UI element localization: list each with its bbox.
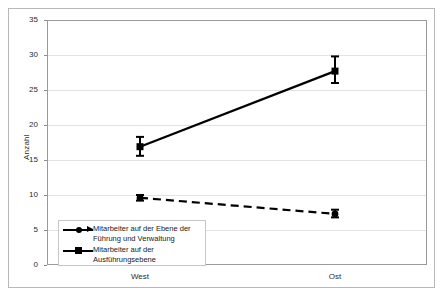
legend-label-fuehrung-verwaltung: Mitarbeiter auf der Ebene der Führung un…	[93, 224, 205, 243]
x-tick-label-ost: Ost	[310, 272, 360, 281]
y-tick-label-15: 15	[2, 156, 38, 164]
y-tick-label-25: 25	[2, 86, 38, 94]
y-tick-mark	[44, 55, 47, 56]
y-tick-label-5: 5	[2, 226, 38, 234]
y-tick-mark	[44, 125, 47, 126]
y-tick-label-10: 10	[2, 191, 38, 199]
legend-label-ausfuehrungsebene: Mitarbeiter auf der Ausführungsebene	[93, 245, 205, 264]
legend-item-fuehrung-verwaltung: Mitarbeiter auf der Ebene der Führung un…	[63, 224, 205, 243]
y-tick-mark	[44, 90, 47, 91]
chart-legend: Mitarbeiter auf der Ebene der Führung un…	[58, 220, 206, 266]
legend-item-ausfuehrungsebene: Mitarbeiter auf der Ausführungsebene	[63, 245, 205, 264]
x-tick-label-west: West	[115, 272, 165, 281]
gridline	[48, 195, 426, 196]
legend-key-solid-square-icon	[63, 246, 93, 256]
gridline	[48, 125, 426, 126]
y-tick-label-30: 30	[2, 51, 38, 59]
y-tick-mark	[44, 265, 47, 266]
y-tick-mark	[44, 230, 47, 231]
y-tick-label-0: 0	[2, 261, 38, 269]
gridline	[48, 160, 426, 161]
y-tick-mark	[44, 160, 47, 161]
gridline	[48, 55, 426, 56]
chart-figure: Anzahl 35 30 25 20 15 10 5 0 West Ost Mi…	[0, 0, 443, 296]
legend-key-dashed-circle-icon	[63, 225, 93, 235]
gridline	[48, 90, 426, 91]
y-tick-label-20: 20	[2, 121, 38, 129]
y-tick-label-35: 35	[2, 16, 38, 24]
y-tick-mark	[44, 195, 47, 196]
y-tick-mark	[44, 20, 47, 21]
